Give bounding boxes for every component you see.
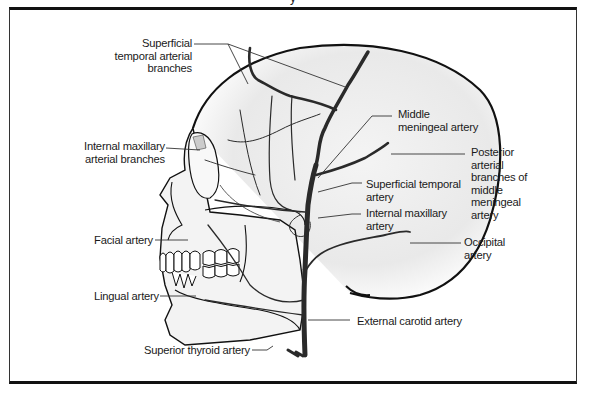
label-line: artery [464, 249, 505, 262]
label-line: branches of [471, 171, 527, 184]
label-line: Superior thyroid artery [144, 344, 250, 357]
label-occipital-artery: Occipital artery [464, 236, 505, 261]
label-lingual-artery: Lingual artery [94, 290, 159, 303]
label-line: Lingual artery [94, 290, 159, 303]
label-line: Superficial temporal [366, 178, 461, 191]
label-line: meningeal artery [398, 121, 478, 134]
label-line: Facial artery [94, 234, 153, 247]
label-line: External carotid artery [357, 315, 462, 328]
label-superficial-temporal-arterial-branches: Superficial temporal arterial branches [115, 37, 192, 75]
label-internal-maxillary-artery: Internal maxillary artery [366, 207, 447, 232]
label-line: Occipital [464, 236, 505, 249]
label-line: arterial [471, 159, 527, 172]
label-line: Posterior [471, 146, 527, 159]
label-line: artery [366, 220, 447, 233]
label-external-carotid-artery: External carotid artery [357, 315, 462, 328]
label-facial-artery: Facial artery [94, 234, 153, 247]
label-line: meningeal [471, 196, 527, 209]
label-superior-thyroid-artery: Superior thyroid artery [144, 344, 250, 357]
label-line: artery [471, 209, 527, 222]
label-line: temporal arterial [115, 50, 192, 63]
label-internal-maxillary-arterial-branches: Internal maxillary arterial branches [84, 140, 165, 165]
label-middle-meningeal-artery: Middle meningeal artery [398, 108, 478, 133]
label-line: arterial branches [84, 153, 165, 166]
label-superficial-temporal-artery: Superficial temporal artery [366, 178, 461, 203]
label-line: Superficial [115, 37, 192, 50]
label-line: branches [115, 62, 192, 75]
label-line: Internal maxillary [84, 140, 165, 153]
label-line: Middle [398, 108, 478, 121]
label-line: artery [366, 191, 461, 204]
label-line: Internal maxillary [366, 207, 447, 220]
label-line: middle [471, 184, 527, 197]
label-posterior-arterial-branches: Posterior arterial branches of middle me… [471, 146, 527, 221]
